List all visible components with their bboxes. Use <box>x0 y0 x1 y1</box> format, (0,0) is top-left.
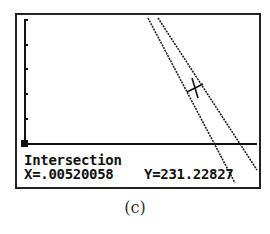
line-2 <box>158 18 257 170</box>
figure-caption: (c) <box>0 198 270 217</box>
calculator-screen: Intersection X=.00520058 Y=231.22827 <box>15 13 261 189</box>
origin-marker <box>21 140 28 147</box>
x-value: X=.00520058 <box>24 167 113 181</box>
y-value: Y=231.22827 <box>144 167 233 181</box>
intersection-label: Intersection <box>24 153 122 167</box>
line-1 <box>148 18 235 183</box>
